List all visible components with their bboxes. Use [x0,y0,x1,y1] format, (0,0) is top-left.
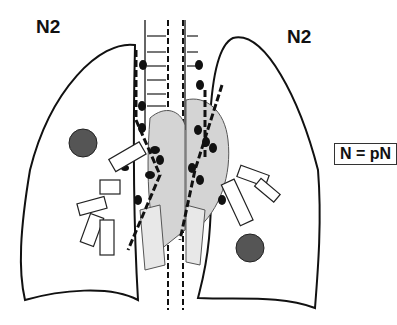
right-bronchi [221,165,280,226]
tumor-right [236,234,264,262]
tumor-left [69,129,97,157]
esophagus-right [186,205,205,265]
left-lung-outline [21,45,138,300]
